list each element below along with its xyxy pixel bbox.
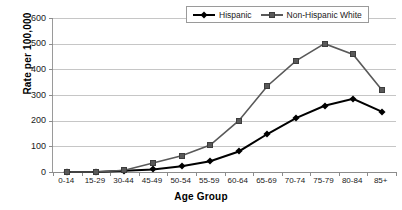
legend-swatch-icon <box>193 10 215 20</box>
series-line-hispanic <box>67 99 381 172</box>
x-tick-label-75-79: 75-79 <box>309 176 338 185</box>
x-tick-label-0-14: 0-14 <box>52 176 81 185</box>
y-tick-label: 100 <box>0 142 46 151</box>
x-tick-label-45-49: 45-49 <box>138 176 167 185</box>
data-point <box>150 160 156 166</box>
chart-legend[interactable]: HispanicNon-Hispanic White <box>186 6 369 23</box>
data-point <box>236 118 242 124</box>
y-tick-label: 600 <box>0 14 46 23</box>
data-point <box>207 142 213 148</box>
legend-label: Hispanic <box>219 10 252 20</box>
x-tick-label-50-54: 50-54 <box>166 176 195 185</box>
data-point <box>64 169 70 175</box>
data-point <box>264 83 270 89</box>
series-line-non-hispanic-white <box>67 44 381 172</box>
data-point <box>350 51 356 57</box>
x-tick <box>396 172 397 176</box>
y-tick-label: 300 <box>0 91 46 100</box>
x-tick-label-65-69: 65-69 <box>252 176 281 185</box>
x-tick-label-85+: 85+ <box>366 176 395 185</box>
plot-area <box>52 18 395 172</box>
x-tick-label-70-74: 70-74 <box>281 176 310 185</box>
x-tick-label-80-84: 80-84 <box>338 176 367 185</box>
legend-marker-diamond-icon <box>200 11 207 18</box>
data-point <box>322 41 328 47</box>
x-tick-label-15-29: 15-29 <box>81 176 110 185</box>
data-point <box>179 153 185 159</box>
series-lines <box>53 18 396 172</box>
x-axis-title: Age Group <box>0 191 402 202</box>
line-chart: Rate per 100,000 6005004003002001000 0-1… <box>0 0 402 210</box>
data-point <box>379 87 385 93</box>
data-point <box>121 167 127 173</box>
legend-label: Non-Hispanic White <box>287 10 362 20</box>
y-tick-label: 400 <box>0 65 46 74</box>
legend-marker-square-icon <box>269 12 275 18</box>
x-tick-label-30-44: 30-44 <box>109 176 138 185</box>
y-tick-label: 200 <box>0 116 46 125</box>
data-point <box>293 58 299 64</box>
y-tick-label: 0 <box>0 168 46 177</box>
data-point <box>93 169 99 175</box>
y-tick-label: 500 <box>0 39 46 48</box>
x-tick-label-55-59: 55-59 <box>195 176 224 185</box>
x-tick-label-60-64: 60-64 <box>224 176 253 185</box>
legend-entry-hispanic[interactable]: Hispanic <box>193 10 252 20</box>
legend-swatch-icon <box>261 10 283 20</box>
legend-entry-non-hispanic-white[interactable]: Non-Hispanic White <box>261 10 362 20</box>
